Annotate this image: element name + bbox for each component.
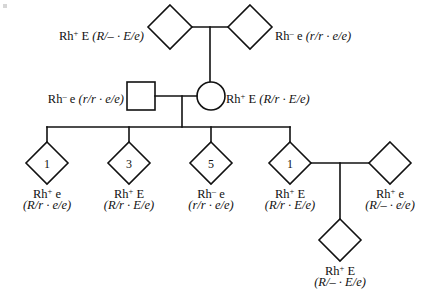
gen3-sibling-1-genotype: (R/r · e/e) <box>23 198 71 212</box>
gen1-father-label: Rh+ E (R/– · E/e) <box>59 26 144 43</box>
gen3-sibling-3-genotype: (R/r · E/e) <box>104 198 154 212</box>
gen3-sibling-4-genotype: (R/r · E/e) <box>265 198 315 212</box>
gen1-father-genotype: (R/– · E/e) <box>92 29 144 43</box>
gen1-father-diamond <box>148 5 192 49</box>
gen2-female-genotype: (R/r · E/e) <box>259 92 309 106</box>
gen1-mother-diamond <box>228 5 272 49</box>
gen2-female-phenotype: Rh+ E <box>226 92 259 106</box>
gen3-mate-diamond <box>369 142 411 184</box>
gen1-mother-genotype: (r/r · e/e) <box>306 29 351 43</box>
gen3-sibling-5-number: 5 <box>208 157 214 172</box>
gen1-mother-phenotype: Rh– e <box>275 29 306 43</box>
gen4-child-genotype: (R/– · E/e) <box>314 275 366 289</box>
gen1-mother-label: Rh– e (r/r · e/e) <box>275 26 351 43</box>
gen4-child-diamond <box>319 219 361 261</box>
gen2-male-genotype: (r/r · e/e) <box>79 92 124 106</box>
gen2-male-label: Rh– e (r/r · e/e) <box>48 89 124 106</box>
pedigree-figure: Rh+ E (R/– · E/e) Rh– e (r/r · e/e) Rh– … <box>0 0 446 294</box>
gen2-female-label: Rh+ E (R/r · E/e) <box>226 89 310 106</box>
pedigree-diagram-canvas <box>0 0 446 294</box>
gen3-sibling-4-number: 1 <box>287 157 293 172</box>
gen2-male-phenotype: Rh– e <box>48 92 79 106</box>
gen3-mate-genotype: (R/– · e/e) <box>365 198 415 212</box>
gen3-sibling-5-genotype: (r/r · e/e) <box>188 198 233 212</box>
gen2-female-circle <box>197 82 225 110</box>
gen1-father-phenotype: Rh+ E <box>59 29 92 43</box>
gen3-sibling-3-number: 3 <box>126 157 132 172</box>
gen3-sibling-1-number: 1 <box>44 157 50 172</box>
gen2-male-square <box>127 82 155 110</box>
